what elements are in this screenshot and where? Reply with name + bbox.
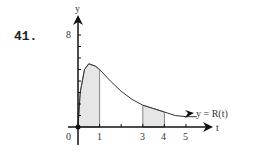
shaded-regions	[78, 64, 164, 127]
origin-dot	[76, 125, 81, 130]
y-axis-label: y	[75, 3, 80, 14]
curve-label: y = R(t)	[196, 108, 228, 120]
x-tick-4: 4	[161, 131, 166, 142]
x-tick-5: 5	[183, 131, 188, 142]
x-tick-0: 0	[66, 131, 71, 142]
x-axis-label: t	[216, 122, 219, 133]
chart: y t y = R(t) 8 0 1 3 4 5	[0, 0, 263, 154]
x-tick-1: 1	[97, 131, 102, 142]
y-tick-8: 8	[66, 29, 71, 40]
x-tick-3: 3	[140, 131, 145, 142]
